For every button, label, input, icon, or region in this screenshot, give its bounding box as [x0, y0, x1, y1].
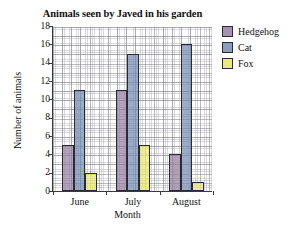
bar-fox-june [85, 173, 97, 191]
legend-swatch-fox-icon [222, 58, 233, 69]
x-tick-mark [160, 191, 161, 195]
x-category-label: July [125, 196, 142, 208]
y-tick-label: 16 [41, 38, 51, 50]
bar-fox-august [192, 182, 204, 191]
chart-title: Animals seen by Javed in his garden [30, 8, 215, 20]
bar-hedgehog-june [62, 145, 74, 191]
legend-item-hedgehog[interactable]: Hedgehog [222, 24, 296, 39]
x-tick-mark [53, 191, 54, 195]
legend-item-cat[interactable]: Cat [222, 40, 296, 55]
x-category-label: August [172, 196, 201, 208]
y-tick-label: 18 [41, 20, 51, 32]
bar-chart: Animals seen by Javed in his garden Numb… [0, 0, 297, 225]
bar-hedgehog-august [169, 154, 181, 191]
y-tick-label: 8 [45, 111, 50, 123]
bar-hedgehog-july [116, 90, 128, 191]
legend-swatch-hedgehog-icon [222, 26, 233, 37]
x-category-label: June [70, 196, 88, 208]
chart-legend: HedgehogCatFox [222, 24, 296, 72]
legend-swatch-cat-icon [222, 42, 233, 53]
x-axis-title: Month [40, 209, 215, 220]
plot-area: 024681012141618 JuneJulyAugust [52, 27, 212, 192]
bar-cat-june [74, 90, 86, 191]
x-tick-mark [106, 191, 107, 195]
legend-label: Hedgehog [238, 26, 279, 38]
y-tick-label: 12 [41, 75, 51, 87]
y-tick-label: 6 [45, 130, 50, 142]
y-tick-label: 14 [41, 56, 51, 68]
bar-fox-july [139, 145, 151, 191]
y-tick-label: 0 [45, 185, 50, 197]
legend-label: Fox [238, 58, 254, 70]
y-tick-label: 2 [45, 166, 50, 178]
y-tick-label: 10 [41, 93, 51, 105]
y-axis-title: Number of animals [12, 41, 23, 181]
y-tick-label: 4 [45, 148, 50, 160]
bar-cat-august [181, 44, 193, 191]
bar-cat-july [127, 54, 139, 192]
legend-label: Cat [238, 42, 252, 54]
legend-item-fox[interactable]: Fox [222, 56, 296, 71]
x-tick-mark [213, 191, 214, 195]
